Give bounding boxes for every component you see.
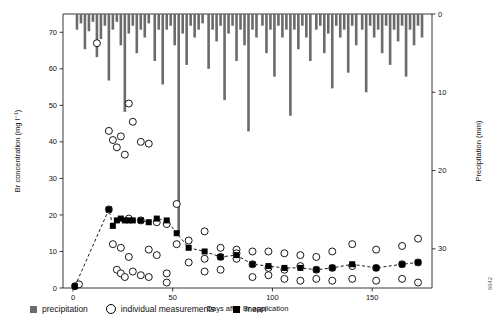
individual-measurement-point — [109, 241, 116, 248]
precipitation-bar — [165, 14, 168, 30]
individual-measurement-point — [201, 255, 208, 262]
mean-point — [138, 217, 144, 223]
precipitation-bar — [401, 14, 404, 26]
mean-point — [373, 265, 379, 271]
individual-measurement-point — [249, 274, 256, 281]
precipitation-bar — [189, 14, 192, 26]
precipitation-bar — [215, 14, 218, 41]
y2-tick-label: 10 — [438, 88, 446, 97]
precipitation-bar — [251, 14, 254, 30]
open-circle-marker-icon — [106, 304, 116, 314]
individual-measurement-point — [297, 277, 304, 284]
legend-label-precipitation: precipitation — [42, 304, 88, 314]
mean-point — [349, 261, 355, 267]
individual-measurement-point — [117, 244, 124, 251]
precipitation-bar — [108, 14, 111, 81]
precipitation-bar — [136, 14, 139, 53]
legend-item-individual-measurements: individual measurements — [106, 304, 215, 314]
precipitation-bar — [84, 14, 87, 49]
precipitation-bar — [365, 14, 368, 92]
individual-measurement-point — [313, 253, 320, 260]
mean-point — [218, 254, 224, 260]
individual-measurement-point — [173, 241, 180, 248]
individual-measurement-point — [313, 275, 320, 282]
precipitation-bar — [120, 14, 123, 45]
mean-point — [399, 261, 405, 267]
y-tick-label: 0 — [53, 284, 57, 293]
precipitation-bar — [181, 14, 184, 34]
precipitation-bar — [351, 14, 354, 26]
precipitation-bar — [343, 14, 346, 30]
individual-measurement-point — [201, 228, 208, 235]
mean-point — [202, 248, 208, 254]
y-tick-label: 70 — [49, 28, 57, 37]
individual-measurement-point — [137, 138, 144, 145]
y-tick-label: 20 — [49, 211, 57, 220]
individual-measurement-point — [121, 274, 128, 281]
corner-code: 6642 — [487, 277, 493, 290]
individual-measurement-point — [173, 200, 180, 207]
individual-measurement-point — [249, 248, 256, 255]
individual-measurement-point — [121, 151, 128, 158]
precipitation-bar — [80, 14, 83, 23]
precipitation-bar — [139, 14, 142, 30]
individual-measurement-point — [185, 237, 192, 244]
mean-point — [265, 263, 271, 269]
precipitation-bar — [211, 14, 214, 30]
mean-point — [174, 230, 180, 236]
precipitation-bar — [309, 14, 312, 61]
individual-measurement-point — [163, 279, 170, 286]
individual-measurement-point — [329, 248, 336, 255]
mean-point — [110, 223, 116, 229]
chart-svg: 0102030405060700102030050100150Days afte… — [0, 0, 497, 325]
mean-point — [329, 265, 335, 271]
precipitation-bar — [273, 14, 276, 77]
precipitation-bar — [132, 14, 135, 26]
precipitation-bar — [76, 14, 79, 30]
mean-point — [186, 245, 192, 251]
mean-point — [164, 217, 170, 223]
individual-measurement-point — [125, 253, 132, 260]
individual-measurement-point — [153, 252, 160, 259]
y-axis-title: Br concentration (mg l⁻¹) — [13, 109, 22, 192]
mean-point — [297, 265, 303, 271]
legend-label-individual-measurements: individual measurements — [121, 304, 215, 314]
individual-measurement-point — [281, 250, 288, 257]
precipitation-bar — [369, 14, 372, 26]
mean-point — [281, 265, 287, 271]
precipitation-bar — [373, 14, 376, 37]
precipitation-bar — [305, 14, 308, 37]
precipitation-bar — [331, 14, 334, 88]
precipitation-bar — [112, 14, 115, 30]
mean-point — [249, 261, 255, 267]
precipitation-bar — [289, 14, 292, 116]
precipitation-bar — [327, 14, 330, 34]
individual-measurement-point — [145, 246, 152, 253]
individual-measurement-point — [117, 133, 124, 140]
precipitation-bar — [147, 14, 150, 23]
legend-item-mean: mean — [233, 304, 266, 314]
precipitation-bar — [243, 14, 246, 45]
precipitation-bar — [421, 14, 424, 37]
mean-point — [154, 216, 160, 222]
individual-measurement-point — [265, 248, 272, 255]
individual-measurement-point — [281, 275, 288, 282]
individual-measurement-point — [399, 242, 406, 249]
individual-measurement-point — [415, 279, 422, 286]
precipitation-bar — [269, 14, 272, 30]
individual-measurement-point — [265, 272, 272, 279]
precipitation-bar — [201, 14, 204, 23]
precipitation-bar — [161, 14, 164, 84]
precipitation-bar — [315, 14, 318, 30]
precipitation-bar — [277, 14, 280, 26]
precipitation-bar — [169, 14, 172, 26]
mean-point — [313, 267, 319, 273]
precipitation-bar — [417, 14, 420, 26]
y2-axis-title: Precipitation (mm) — [474, 120, 483, 181]
y2-tick-label: 20 — [438, 166, 446, 175]
individual-measurement-point — [373, 277, 380, 284]
precipitation-bar — [239, 14, 242, 30]
precipitation-bar — [104, 14, 107, 26]
precipitation-bar — [255, 14, 258, 37]
precipitation-bar — [377, 14, 380, 30]
